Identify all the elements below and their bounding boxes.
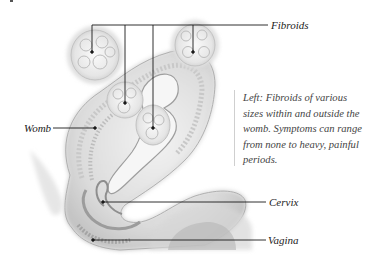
- corner-mark: [10, 0, 13, 2]
- fibroids-label: Fibroids: [271, 19, 309, 31]
- cervix-label: Cervix: [269, 196, 298, 208]
- womb-shape: [30, 50, 252, 250]
- vagina-label: Vagina: [268, 234, 299, 246]
- fibroid-top-left: [68, 27, 122, 83]
- womb-label: Womb: [24, 122, 51, 134]
- figure-caption: Left: Fibroids of various sizes within a…: [243, 90, 368, 168]
- fibroid-top-right: [172, 21, 218, 69]
- caption-rule: [234, 90, 235, 166]
